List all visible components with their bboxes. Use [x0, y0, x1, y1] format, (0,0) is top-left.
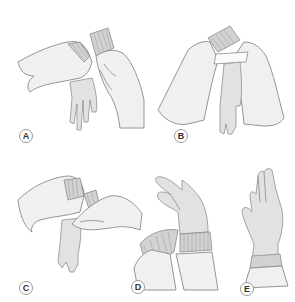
panel-label-e: E — [240, 282, 254, 296]
panel-b-illustration — [148, 0, 295, 150]
panel-label-d: D — [131, 280, 145, 294]
panel-e-illustration — [230, 150, 295, 302]
panel-label-a: A — [19, 129, 33, 143]
panel-c: C — [0, 150, 145, 302]
panel-a-illustration — [0, 0, 150, 150]
panel-label-c: C — [19, 281, 33, 295]
panel-d: D — [130, 150, 230, 302]
panel-d-illustration — [130, 150, 230, 302]
panel-a: A — [0, 0, 150, 150]
panel-b: B — [148, 0, 295, 150]
panel-c-illustration — [0, 150, 145, 302]
panel-e: E — [230, 150, 295, 302]
panel-label-b: B — [174, 129, 188, 143]
